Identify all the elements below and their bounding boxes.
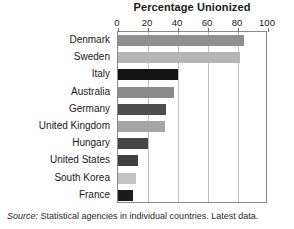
x-tick-label-60: 60 [202,17,213,28]
bar-france [118,190,133,201]
bar-row [118,32,266,49]
x-tick-label-40: 40 [172,17,183,28]
bar-hungary [118,138,148,149]
plot-area [117,31,267,203]
bar-germany [118,104,166,115]
category-label-denmark: Denmark [69,31,110,48]
category-label-sweden: Sweden [74,48,110,65]
category-label-germany: Germany [69,100,110,117]
bar-denmark [118,35,244,46]
x-tick-label-100: 100 [259,17,275,28]
chart-title: Percentage Unionized [117,1,267,13]
category-label-united-kingdom: United Kingdom [39,117,110,134]
x-tick-label-0: 0 [114,17,119,28]
category-label-south-korea: South Korea [54,169,110,186]
bar-row [118,66,266,83]
category-label-france: France [79,186,110,203]
bar-row [118,118,266,135]
source-label: Source: [7,211,38,221]
bar-row [118,135,266,152]
unionization-bar-chart: Percentage Unionized 020406080100 Denmar… [0,0,294,229]
bar-row [118,84,266,101]
x-tick-label-80: 80 [232,17,243,28]
source-text: Statistical agencies in individual count… [41,211,259,221]
category-label-united-states: United States [50,151,110,168]
bar-row [118,187,266,204]
bars [118,32,266,202]
bar-row [118,101,266,118]
source-note: Source: Statistical agencies in individu… [7,211,258,221]
category-label-hungary: Hungary [72,134,110,151]
bar-united-states [118,155,138,166]
x-tickmark-100 [268,28,269,32]
x-tick-label-20: 20 [142,17,153,28]
x-axis-tick-labels: 020406080100 [0,17,294,30]
bar-united-kingdom [118,121,165,132]
bar-row [118,49,266,66]
bar-italy [118,69,178,80]
y-axis-category-labels: DenmarkSwedenItalyAustraliaGermanyUnited… [0,31,114,203]
bar-row [118,170,266,187]
bar-row [118,152,266,169]
bar-sweden [118,52,240,63]
category-label-australia: Australia [71,83,110,100]
bar-south-korea [118,173,136,184]
category-label-italy: Italy [92,65,110,82]
bar-australia [118,87,174,98]
